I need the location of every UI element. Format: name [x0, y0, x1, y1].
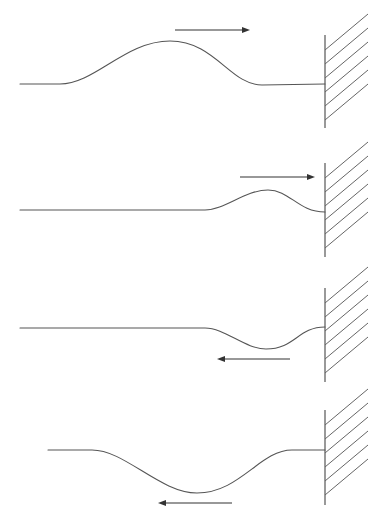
arrow-head — [242, 27, 250, 33]
wall-hatch-line — [325, 281, 368, 317]
wall-hatch-line — [325, 389, 368, 425]
wave-pulse-upright — [20, 41, 325, 85]
wall-hatch-line — [325, 295, 368, 331]
wave-pulse-inverting — [20, 327, 325, 349]
wall-hatch-line — [325, 156, 368, 192]
fixed-wall — [325, 14, 368, 128]
wall-hatch-line — [325, 445, 368, 481]
arrow-head — [307, 174, 315, 180]
arrow-head — [158, 500, 166, 506]
fixed-end-reflection-diagram — [0, 0, 388, 525]
fixed-wall — [325, 389, 368, 505]
wall-hatch-line — [325, 184, 368, 220]
wall-hatch-line — [325, 28, 368, 64]
panel-pulse-arriving — [20, 142, 368, 257]
panel-reflected-pulse — [48, 389, 368, 506]
wall-hatch-line — [325, 267, 368, 303]
wall-hatch-line — [325, 323, 368, 359]
wall-hatch-line — [325, 142, 368, 178]
wall-hatch-line — [325, 212, 368, 248]
wall-hatch-line — [325, 56, 368, 92]
wall-hatch-line — [325, 431, 368, 467]
arrow-left-icon — [217, 356, 290, 362]
fixed-wall — [325, 267, 368, 382]
wall-hatch-line — [325, 459, 368, 495]
wall-hatch-line — [325, 170, 368, 206]
wall-hatch-line — [325, 417, 368, 453]
panel-incident-pulse — [20, 14, 368, 128]
wall-hatch-line — [325, 14, 368, 50]
panel-pulse-inverting — [20, 267, 368, 382]
wall-hatch-line — [325, 403, 368, 439]
wave-pulse-compressed — [20, 190, 325, 212]
wall-hatch-line — [325, 309, 368, 345]
wall-hatch-line — [325, 42, 368, 78]
wall-hatch-line — [325, 84, 368, 120]
arrow-head — [217, 356, 225, 362]
arrow-left-icon — [158, 500, 232, 506]
wall-hatch-line — [325, 198, 368, 234]
wave-pulse-inverted — [48, 450, 325, 493]
wall-hatch-line — [325, 337, 368, 373]
wall-hatch-line — [325, 70, 368, 106]
arrow-right-icon — [240, 174, 315, 180]
fixed-wall — [325, 142, 368, 257]
arrow-right-icon — [175, 27, 250, 33]
